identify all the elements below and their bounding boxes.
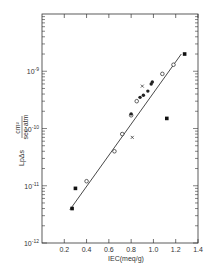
y-axis-numerator: cm² [14, 122, 21, 134]
x-tick-label: 0.6 [104, 246, 114, 253]
data-point-circle-open [161, 72, 165, 76]
data-point-square [165, 117, 169, 121]
data-point-circle-open [135, 99, 139, 103]
data-point-circle-filled [151, 80, 154, 83]
data-point-circle-open [85, 179, 89, 183]
data-point-square [183, 52, 187, 56]
x-tick-label: 1.0 [149, 246, 159, 253]
x-tick-label: 0.4 [82, 246, 92, 253]
y-tick-label: 10-11 [24, 181, 39, 190]
data-point-circle-filled [146, 89, 149, 92]
y-tick-label: 10-9 [27, 66, 39, 75]
plot-frame [42, 14, 198, 243]
data-point-circle-filled [142, 94, 145, 97]
x-tick-label: 0.2 [59, 246, 69, 253]
data-point-circle-filled [138, 96, 141, 99]
data-point-circle-open [120, 132, 124, 136]
data-point-square [74, 187, 78, 191]
data-point-square [70, 207, 74, 211]
data-point-circle-open [113, 149, 117, 153]
x-axis-title: IEC(meq/g) [108, 255, 144, 263]
y-tick-label: 10-12 [24, 238, 39, 247]
y-axis-title: LpΔscm²sec·atm [14, 114, 29, 166]
x-tick-label: 1.4 [193, 246, 203, 253]
fit-line [70, 54, 181, 210]
x-tick-label: 1.2 [171, 246, 181, 253]
data-point-circle-filled [129, 112, 132, 115]
x-tick-label: 0.8 [126, 246, 136, 253]
chart: 0.20.40.60.81.01.21.410-1210-1110-1010-9… [0, 0, 216, 274]
y-axis-denominator: sec·atm [22, 114, 29, 139]
data-point-circle-open [172, 63, 176, 67]
y-axis-prefix: LpΔs [18, 150, 26, 166]
